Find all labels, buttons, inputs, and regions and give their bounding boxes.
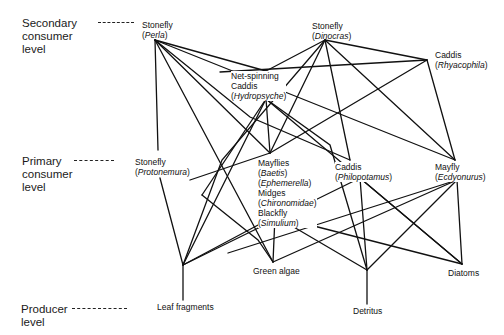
- node-caddis-rhyacophila: Caddis (Rhyacophila): [435, 50, 487, 70]
- level-secondary-line3: level: [22, 43, 77, 56]
- node-stonefly-dinocras: Stonefly (Dinocras): [312, 21, 351, 41]
- level-producer-dash: [72, 308, 127, 309]
- level-primary-line2: consumer: [22, 168, 73, 181]
- node-mayflies-group: Mayflies (Baetis) (Ephemerella) Midges (…: [258, 158, 317, 228]
- node-stonefly-protonemura: Stonefly (Protonemura): [135, 157, 190, 177]
- level-producer: Producer level: [21, 303, 68, 329]
- node-caddis-hydropsyche: Net-spinning Caddis (Hydropsyche): [231, 71, 286, 101]
- node-detritus: Detritus: [353, 306, 382, 316]
- node-green-algae: Green algae: [253, 266, 300, 276]
- level-secondary: Secondary consumer level: [22, 17, 77, 56]
- node-leaf-fragments: Leaf fragments: [157, 302, 214, 312]
- level-primary: Primary consumer level: [22, 155, 73, 194]
- level-primary-line1: Primary: [22, 155, 73, 168]
- level-producer-line2: level: [21, 316, 68, 329]
- level-primary-line3: level: [22, 181, 73, 194]
- node-caddis-philopotamus: Caddis (Philopotamus): [335, 162, 392, 182]
- node-diatoms: Diatoms: [448, 268, 479, 278]
- level-secondary-line2: consumer: [22, 30, 77, 43]
- level-secondary-line1: Secondary: [22, 17, 77, 30]
- node-stonefly-perla: Stonefly (Perla): [142, 20, 173, 40]
- level-primary-dash: [74, 160, 114, 161]
- level-secondary-dash: [98, 22, 134, 23]
- level-producer-line1: Producer: [21, 303, 68, 316]
- node-mayfly-ecdyonurus: Mayfly (Ecdyonurus): [435, 162, 486, 182]
